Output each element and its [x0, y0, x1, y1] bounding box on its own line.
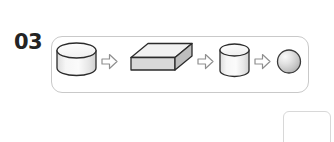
diagram-canvas: 03 [0, 0, 334, 142]
step-number-label: 03 [14, 32, 42, 53]
empty-placeholder-box[interactable] [283, 111, 331, 142]
process-flow-panel [51, 36, 309, 93]
